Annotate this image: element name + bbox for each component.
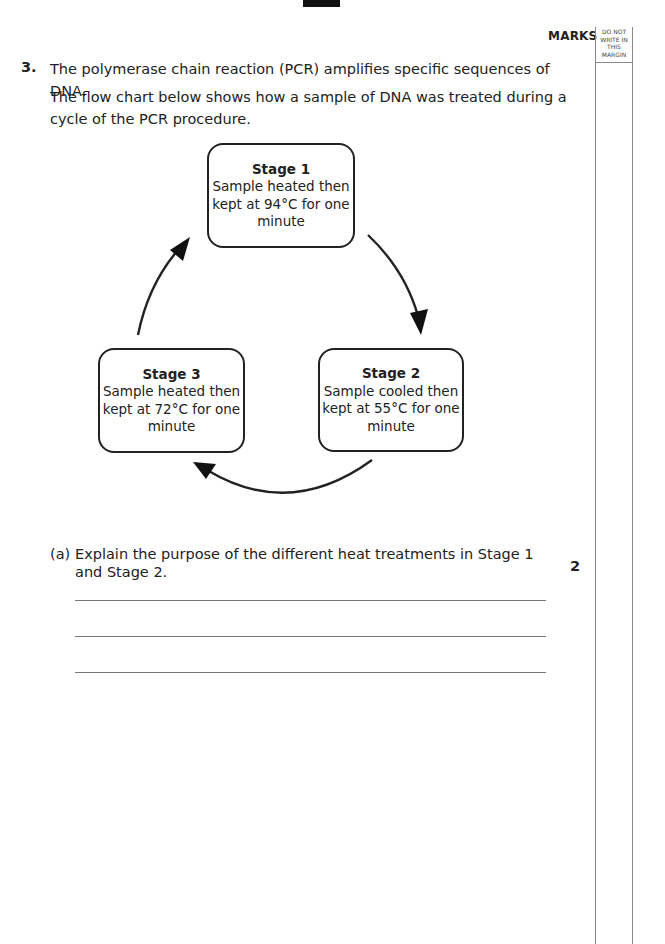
stage-text-line: Sample cooled then xyxy=(320,383,462,401)
stage-text-line: Sample heated then xyxy=(100,383,243,401)
flowchart-arrows xyxy=(0,0,665,944)
stage-3-box: Stage 3 Sample heated then kept at 72°C … xyxy=(98,348,245,453)
arrow-stage1-to-stage2 xyxy=(368,235,428,335)
arrow-stage2-to-stage3 xyxy=(193,460,372,493)
stage-text-line: Sample heated then xyxy=(209,178,353,196)
stage-text-line: kept at 55°C for one xyxy=(320,400,462,418)
part-a-marks: 2 xyxy=(570,558,580,574)
stage-text-line: minute xyxy=(320,418,462,436)
answer-line[interactable] xyxy=(75,636,546,637)
stage-2-box: Stage 2 Sample cooled then kept at 55°C … xyxy=(318,348,464,452)
stage-title: Stage 3 xyxy=(100,366,243,384)
answer-line[interactable] xyxy=(75,672,546,673)
answer-line[interactable] xyxy=(75,600,546,601)
stage-title: Stage 2 xyxy=(320,365,462,383)
stage-1-box: Stage 1 Sample heated then kept at 94°C … xyxy=(207,143,355,248)
stage-text-line: minute xyxy=(100,418,243,436)
arrow-stage3-to-stage1 xyxy=(138,237,190,335)
part-a-question: Explain the purpose of the different hea… xyxy=(75,545,565,581)
stage-title: Stage 1 xyxy=(209,161,353,179)
stage-text-line: kept at 72°C for one xyxy=(100,401,243,419)
part-a-label: (a) xyxy=(50,545,70,563)
stage-text-line: kept at 94°C for one xyxy=(209,196,353,214)
stage-text-line: minute xyxy=(209,213,353,231)
